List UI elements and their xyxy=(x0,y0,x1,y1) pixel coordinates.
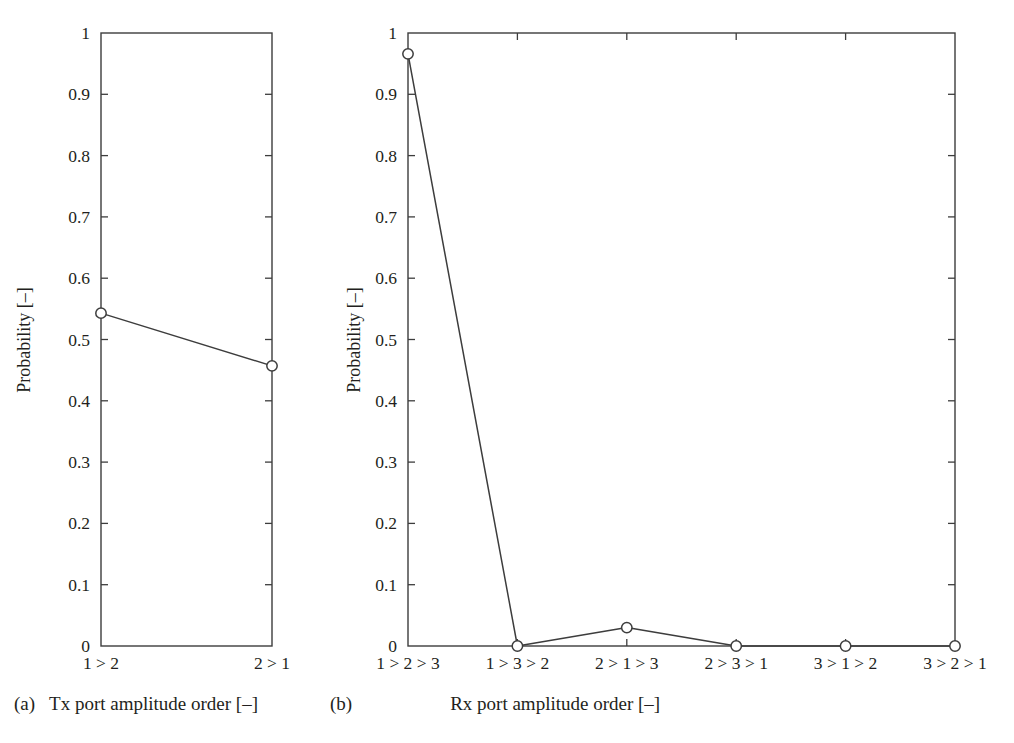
chart-a-xtick-label-1: 2 > 1 xyxy=(254,653,290,673)
chart-b-marker-4 xyxy=(840,641,850,651)
chart-b-xtick-label-4: 3 > 1 > 2 xyxy=(814,653,878,673)
chart-a-marker-0 xyxy=(96,308,106,318)
chart-a-ytick-label-1: 0.1 xyxy=(68,575,90,595)
chart-b-ytick-label-5: 0.5 xyxy=(375,330,397,350)
subfigure-a-caption: (a)Tx port amplitude order [–] xyxy=(14,693,258,715)
chart-a-series-line xyxy=(101,313,272,366)
chart-b-data-series xyxy=(403,49,960,652)
subfigure-a: Probability [–] 00.10.20.30.40.50.60.70.… xyxy=(0,0,330,693)
chart-a-xtick-label-0: 1 > 2 xyxy=(83,653,119,673)
chart-a-y-tick-labels: 00.10.20.30.40.50.60.70.80.91 xyxy=(68,23,90,656)
chart-a-x-tick-labels: 1 > 22 > 1 xyxy=(83,653,290,673)
chart-b-ytick-label-9: 0.9 xyxy=(375,84,397,104)
chart-b-ytick-label-8: 0.8 xyxy=(375,146,397,166)
chart-b-marker-0 xyxy=(403,49,413,59)
chart-b-ticks xyxy=(408,33,955,646)
chart-b-xtick-label-0: 1 > 2 > 3 xyxy=(376,653,440,673)
subfigure-b: Probability [–] 00.10.20.30.40.50.60.70.… xyxy=(330,0,1014,693)
chart-b-ytick-label-4: 0.4 xyxy=(375,391,397,411)
chart-a-ytick-label-9: 0.9 xyxy=(68,84,90,104)
subfigure-b-caption: (b)Rx port amplitude order [–] xyxy=(330,693,660,715)
chart-a-ytick-label-3: 0.3 xyxy=(68,452,90,472)
chart-b-axes-box xyxy=(408,33,955,646)
chart-a-canvas: Probability [–] 00.10.20.30.40.50.60.70.… xyxy=(0,0,330,693)
subfigure-b-caption-text: Rx port amplitude order [–] xyxy=(450,693,660,715)
caption-row: (a)Tx port amplitude order [–] (b)Rx por… xyxy=(0,693,1014,733)
chart-b-ytick-label-7: 0.7 xyxy=(375,207,397,227)
chart-b-y-axis-label: Probability [–] xyxy=(344,287,364,393)
chart-a-ytick-label-8: 0.8 xyxy=(68,146,90,166)
chart-b-ylabel-group: Probability [–] xyxy=(344,287,364,393)
chart-b-xtick-label-2: 2 > 1 > 3 xyxy=(595,653,659,673)
subfigure-a-tag: (a) xyxy=(14,693,35,715)
chart-b-marker-5 xyxy=(950,641,960,651)
subfigure-a-caption-text: Tx port amplitude order [–] xyxy=(49,693,258,715)
chart-b-series-line xyxy=(408,54,955,646)
chart-a-ytick-label-5: 0.5 xyxy=(68,330,90,350)
chart-b-y-tick-labels: 00.10.20.30.40.50.60.70.80.91 xyxy=(375,23,397,656)
chart-a-ytick-label-2: 0.2 xyxy=(68,513,90,533)
chart-b-x-tick-labels: 1 > 2 > 31 > 3 > 22 > 1 > 32 > 3 > 13 > … xyxy=(376,653,987,673)
chart-a-y-axis-label: Probability [–] xyxy=(14,287,34,393)
chart-b-frame xyxy=(408,33,955,646)
chart-b-marker-1 xyxy=(512,641,522,651)
chart-a-ylabel-group: Probability [–] xyxy=(14,287,34,393)
chart-b-canvas: Probability [–] 00.10.20.30.40.50.60.70.… xyxy=(330,0,1014,693)
chart-a-ytick-label-4: 0.4 xyxy=(68,391,90,411)
figure-root: Probability [–] 00.10.20.30.40.50.60.70.… xyxy=(0,0,1014,743)
chart-b-ytick-label-2: 0.2 xyxy=(375,513,397,533)
chart-a-ytick-label-6: 0.6 xyxy=(68,268,90,288)
chart-b-xtick-label-3: 2 > 3 > 1 xyxy=(704,653,768,673)
chart-a-data-series xyxy=(96,308,277,371)
chart-a-marker-1 xyxy=(267,361,277,371)
chart-b-marker-2 xyxy=(622,622,632,632)
chart-a-ytick-label-7: 0.7 xyxy=(68,207,90,227)
chart-a-ytick-label-10: 1 xyxy=(81,23,90,43)
chart-b-xtick-label-5: 3 > 2 > 1 xyxy=(923,653,987,673)
chart-b-xtick-label-1: 1 > 3 > 2 xyxy=(486,653,550,673)
chart-b-marker-3 xyxy=(731,641,741,651)
chart-b-ytick-label-3: 0.3 xyxy=(375,452,397,472)
chart-b-ytick-label-6: 0.6 xyxy=(375,268,397,288)
chart-b-ytick-label-10: 1 xyxy=(388,23,397,43)
chart-b-ytick-label-1: 0.1 xyxy=(375,575,397,595)
subfigure-b-tag: (b) xyxy=(330,693,352,715)
